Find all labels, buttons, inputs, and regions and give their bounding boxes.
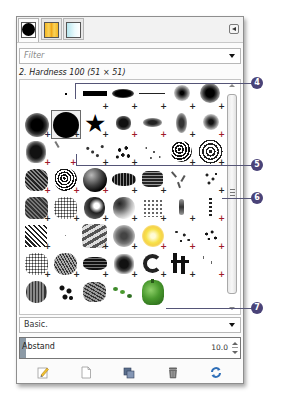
brush-cell[interactable] (23, 279, 51, 306)
scrollbar-thumb[interactable] (227, 94, 237, 294)
filter-placeholder: Filter (24, 51, 44, 60)
brush-cell[interactable] (139, 139, 167, 166)
trash-icon (167, 366, 179, 379)
tab-gradients[interactable] (63, 18, 84, 40)
chevron-down-icon[interactable] (229, 323, 235, 327)
spacing-spinner[interactable]: Abstand 10.0 (19, 337, 241, 359)
brush-cell[interactable]: + (168, 223, 196, 250)
grip-icon (230, 189, 235, 196)
brush-cell[interactable]: ★+ (81, 111, 109, 138)
action-bar (17, 362, 243, 380)
new-brush-button[interactable] (80, 364, 92, 377)
refresh-icon (210, 366, 222, 379)
brush-cell[interactable]: + (139, 111, 167, 138)
brush-cell[interactable] (52, 279, 80, 306)
brush-cell[interactable]: + (197, 111, 225, 138)
edit-icon (37, 366, 49, 379)
brush-cell[interactable]: + (168, 83, 196, 110)
duplicate-icon (123, 366, 135, 379)
brush-cell-selected[interactable]: + (52, 111, 80, 138)
brush-cell[interactable]: + (168, 195, 196, 222)
brush-cell[interactable]: + (110, 195, 138, 222)
brush-cell[interactable]: + (23, 111, 51, 138)
brush-cell[interactable]: + (197, 223, 225, 250)
spin-up-icon[interactable] (232, 342, 238, 345)
callout-6-leader (222, 198, 252, 199)
refresh-brushes-button[interactable] (210, 364, 222, 377)
brush-cell[interactable] (81, 279, 109, 306)
brush-cell[interactable]: + (110, 251, 138, 278)
brush-cell[interactable]: + (52, 251, 80, 278)
callout-5-leader (76, 165, 252, 166)
tag-combo[interactable]: Basic. (19, 317, 241, 333)
brush-grid[interactable]: + + + + + + + ★+ + + + + + + + + + + + +… (19, 79, 241, 315)
brush-cell[interactable]: + (197, 167, 225, 194)
gradient-swatch-icon (66, 22, 81, 38)
new-document-icon (80, 366, 92, 379)
callout-5-badge: 5 (251, 159, 263, 171)
brush-cell[interactable]: + (139, 251, 167, 278)
brush-cell[interactable]: + (81, 195, 109, 222)
brush-cell[interactable]: + (52, 195, 80, 222)
brush-cell[interactable] (52, 223, 80, 250)
brush-cell[interactable]: + (139, 167, 167, 194)
brush-title: 2. Hardness 100 (51 × 51) (19, 68, 126, 77)
brush-cell[interactable] (110, 279, 138, 306)
tab-menu-button[interactable] (229, 24, 239, 34)
scroll-up-arrow-icon[interactable] (229, 84, 235, 87)
brush-cell[interactable]: + (23, 195, 51, 222)
callout-6-badge: 6 (251, 192, 263, 204)
duplicate-brush-button[interactable] (123, 364, 135, 377)
tab-brushes[interactable] (18, 18, 39, 42)
brush-cell[interactable]: + (197, 83, 225, 110)
brush-cell[interactable]: + (110, 167, 138, 194)
brush-cell[interactable]: + (23, 167, 51, 194)
callout-5-leader (76, 154, 77, 165)
tab-patterns[interactable] (41, 18, 62, 40)
brush-cell[interactable]: + (81, 139, 109, 166)
pattern-swatch-icon (44, 22, 59, 38)
brush-cell[interactable]: + (139, 83, 167, 110)
callout-7-leader (166, 308, 252, 309)
tag-combo-value: Basic. (24, 320, 48, 329)
brush-cell[interactable]: + (23, 139, 51, 166)
callout-4-leader (75, 83, 252, 84)
brush-cell[interactable]: + (168, 139, 196, 166)
brush-cell[interactable]: + (52, 167, 80, 194)
brush-swatch-icon (21, 22, 36, 38)
brush-cell[interactable]: + (81, 167, 109, 194)
brush-cell[interactable]: + (110, 223, 138, 250)
edit-brush-button[interactable] (37, 364, 49, 377)
chevron-down-icon[interactable] (229, 54, 235, 58)
spacing-label: Abstand (22, 342, 55, 351)
brush-cell[interactable]: + (110, 111, 138, 138)
brush-cell[interactable]: + (168, 111, 196, 138)
brush-cell[interactable]: + (197, 195, 225, 222)
brush-cell[interactable] (23, 83, 51, 110)
spacing-value[interactable]: 10.0 (211, 343, 228, 352)
delete-brush-button[interactable] (167, 364, 179, 377)
spin-divider (232, 347, 238, 348)
callout-7-badge: 7 (251, 302, 263, 314)
brush-cell[interactable]: + (197, 139, 225, 166)
brush-cell[interactable]: + (81, 223, 109, 250)
brush-cell[interactable] (168, 167, 196, 194)
callout-4-leader (75, 83, 76, 99)
brush-cell[interactable]: + (110, 83, 138, 110)
spin-down-icon[interactable] (232, 351, 238, 354)
filter-combo[interactable]: Filter (19, 48, 241, 64)
callout-4-badge: 4 (251, 77, 263, 89)
brush-cell[interactable] (139, 279, 167, 306)
brush-cell[interactable]: + (23, 223, 51, 250)
brush-cell[interactable]: + (110, 139, 138, 166)
brush-cell[interactable]: + (81, 251, 109, 278)
dock-tab-bar (17, 17, 243, 43)
brush-cell[interactable]: + (139, 223, 167, 250)
brush-cell[interactable]: + (81, 83, 109, 110)
brush-cell[interactable]: + (23, 251, 51, 278)
grid-scrollbar[interactable] (227, 84, 237, 310)
spin-arrows[interactable] (232, 340, 238, 356)
brush-cell[interactable]: + (168, 251, 196, 278)
brush-cell[interactable]: + (197, 251, 225, 278)
brush-cell[interactable]: + (139, 195, 167, 222)
